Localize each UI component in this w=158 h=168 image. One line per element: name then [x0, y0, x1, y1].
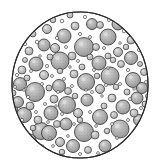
particle — [105, 84, 108, 87]
particle — [99, 140, 111, 152]
particle — [116, 100, 130, 114]
particle — [29, 57, 43, 71]
particle — [46, 85, 52, 91]
particle — [93, 69, 96, 72]
particle — [59, 149, 65, 155]
particle — [138, 62, 143, 67]
particle — [34, 116, 42, 124]
particle — [78, 32, 81, 35]
particle — [52, 145, 55, 148]
particle — [51, 44, 60, 53]
particle — [35, 111, 38, 114]
particle — [87, 54, 93, 60]
particle — [30, 70, 33, 73]
particle — [30, 125, 36, 131]
particle — [39, 55, 42, 58]
particle — [44, 103, 47, 106]
particle — [56, 138, 65, 147]
particle — [91, 91, 94, 94]
particle — [47, 121, 50, 124]
particle — [94, 73, 100, 79]
particle — [108, 94, 116, 102]
figure-root — [0, 0, 158, 168]
particle — [55, 36, 58, 39]
particle — [89, 36, 92, 39]
particle — [60, 19, 64, 23]
particle — [85, 147, 92, 154]
particle — [68, 52, 76, 60]
particle — [77, 60, 80, 63]
particle — [137, 83, 148, 94]
particle — [75, 38, 94, 57]
particle — [79, 153, 82, 156]
particle — [124, 89, 130, 95]
particle — [145, 81, 148, 84]
particle — [95, 125, 98, 128]
particle — [87, 19, 98, 30]
particle — [111, 120, 129, 138]
particle — [26, 102, 34, 110]
particle — [35, 40, 39, 44]
particle — [127, 119, 130, 122]
particle — [89, 111, 92, 114]
particle — [105, 53, 111, 59]
particle — [73, 123, 76, 126]
particle — [113, 84, 119, 90]
particle — [63, 78, 66, 81]
particle — [43, 25, 52, 34]
particle — [72, 93, 78, 99]
particle — [24, 75, 30, 81]
particle — [96, 85, 105, 94]
particle — [71, 22, 79, 30]
particle — [18, 66, 26, 74]
particle — [57, 91, 60, 94]
particle — [119, 83, 122, 86]
particle — [103, 47, 106, 50]
particle — [51, 52, 69, 70]
particle — [79, 64, 85, 70]
particle — [59, 97, 76, 114]
particle — [85, 89, 88, 92]
particle — [126, 68, 129, 71]
particle — [93, 110, 108, 125]
particle — [130, 109, 138, 117]
particle — [83, 15, 86, 18]
particle — [125, 52, 138, 65]
particle — [107, 67, 110, 70]
particle — [75, 123, 94, 142]
particle — [49, 137, 52, 140]
particle — [74, 109, 83, 118]
particle — [111, 123, 114, 126]
particle — [26, 95, 29, 98]
particle — [133, 88, 136, 91]
particle — [81, 94, 93, 106]
particle — [57, 68, 63, 74]
particle — [70, 70, 78, 78]
particle — [129, 98, 132, 101]
particle — [110, 57, 116, 63]
particle — [100, 29, 116, 45]
particle — [55, 105, 58, 108]
particle — [97, 152, 100, 155]
particle-field-figure — [0, 0, 158, 168]
particle — [67, 140, 80, 153]
particle — [45, 64, 48, 67]
particle — [44, 106, 58, 120]
particle — [77, 117, 83, 123]
particle — [97, 22, 104, 29]
particle — [51, 75, 54, 78]
particle — [69, 66, 72, 69]
particle — [104, 128, 110, 134]
particle — [57, 29, 71, 43]
particle — [114, 48, 123, 57]
particle — [23, 89, 26, 92]
particle — [92, 56, 106, 70]
particle — [14, 86, 17, 89]
particle — [123, 44, 129, 50]
particle — [78, 74, 95, 91]
particle — [54, 121, 61, 128]
particle — [119, 42, 122, 45]
particle — [91, 131, 99, 139]
particle — [61, 113, 64, 116]
particle — [41, 83, 44, 86]
